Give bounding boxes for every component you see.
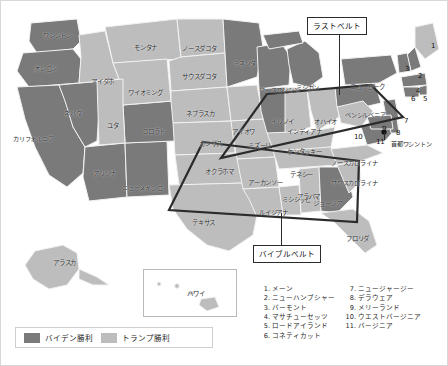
state-key-item: 5. ロードアイランド — [259, 322, 335, 331]
state-key-label: ニューハンプシャー — [270, 294, 335, 302]
state-key-label: ウエストバージニア — [356, 313, 421, 321]
state-key-number: 4. — [259, 313, 270, 322]
legend-swatch-trump — [101, 333, 117, 343]
state-label: ユタ — [107, 123, 119, 129]
state-key-number: 5. — [259, 322, 270, 331]
state-key-item: 8. デラウェア — [345, 294, 421, 303]
legend-swatch-biden — [24, 333, 40, 343]
state-key-item: 2. ニューハンプシャー — [259, 294, 335, 303]
numbered-state-key: 1. メーン2. ニューハンプシャー3. バーモント4. マサチューセッツ5. … — [259, 285, 445, 347]
state-label: ワシントン — [43, 33, 72, 39]
state-label: ジョージア — [313, 201, 342, 207]
state-label: サウスカロライナ — [331, 180, 377, 186]
state-label: モンタナ — [134, 45, 157, 51]
state-label: アリゾナ — [93, 171, 116, 177]
state-label: カリフォルニア — [13, 136, 54, 142]
state-utah — [97, 79, 125, 145]
state-key-label: デラウェア — [356, 294, 393, 302]
state-label: ハワイ — [187, 291, 204, 297]
state-key-number: 7. — [345, 285, 356, 294]
bible-belt-label: バイブルベルト — [259, 250, 315, 259]
state-key-number: 6. — [259, 332, 270, 341]
state-label: アーカンソー — [248, 180, 283, 186]
state-key-label: ニュージャージー — [356, 285, 414, 293]
state-label: ノースカロライナ — [331, 160, 377, 166]
state-texas — [169, 183, 257, 251]
state-label: ペンシルベニア — [345, 112, 386, 118]
state-maine — [415, 23, 439, 59]
state-key-label: コネティカット — [270, 332, 321, 340]
state-key-label: ロードアイランド — [270, 322, 328, 330]
state-key-label: メリーランド — [356, 304, 400, 312]
state-florida — [321, 209, 377, 253]
state-label: ケンタッキー — [287, 149, 322, 155]
state-number-marker: 4 — [416, 88, 420, 95]
state-number-marker: 11 — [376, 139, 385, 146]
state-label: 首都ワシントン — [391, 141, 432, 147]
state-new-york — [341, 55, 397, 85]
state-key-item: 1. メーン — [259, 285, 335, 294]
legend-label-biden: バイデン勝利 — [45, 332, 93, 343]
rust-belt-callout: ラストベルト — [307, 17, 367, 35]
state-montana — [105, 19, 181, 63]
state-number-marker: 2 — [418, 73, 422, 80]
state-label: サウスダコタ — [182, 74, 217, 80]
state-label: ルイジアナ — [259, 210, 288, 216]
state-wisconsin — [257, 43, 291, 89]
state-label: テキサス — [192, 220, 215, 226]
state-label: コロラド — [142, 129, 165, 135]
state-label: オクラホマ — [205, 169, 234, 175]
state-number-marker: 3 — [405, 66, 409, 73]
state-label: ミズーリ — [248, 143, 271, 149]
state-south-dakota — [169, 53, 227, 91]
state-key-number: 10. — [345, 313, 356, 322]
election-map-figure: ラストベルト バイブルベルト ワシントンオレゴンカリフォルニアネバダアイダホモン… — [0, 0, 448, 366]
state-key-item: 11. バージニア — [345, 322, 421, 331]
state-number-marker: 8 — [396, 130, 400, 137]
state-label: オハイオ — [314, 119, 337, 125]
state-key-label: バージニア — [356, 322, 393, 330]
state-key-column-right: 7. ニュージャージー8. デラウェア9. メリーランド10. ウエストバージニ… — [345, 285, 421, 347]
state-key-label: メーン — [270, 285, 293, 293]
state-label: ウィスコンシン — [259, 87, 300, 93]
state-key-number: 11. — [345, 322, 356, 331]
bible-belt-leader — [281, 213, 282, 245]
rust-belt-leader — [339, 33, 340, 95]
state-label: アイオワ — [232, 129, 255, 135]
state-label: テネシー — [290, 172, 313, 178]
state-label: インディアナ — [287, 129, 322, 135]
state-key-item: 6. コネティカット — [259, 332, 335, 341]
state-label: カンザス — [199, 141, 222, 147]
state-key-number: 8. — [345, 294, 356, 303]
state-label: ネバダ — [64, 111, 81, 117]
state-key-label: バーモント — [270, 304, 307, 312]
state-key-item: 3. バーモント — [259, 304, 335, 313]
state-key-item: 7. ニュージャージー — [345, 285, 421, 294]
state-key-item: 10. ウエストバージニア — [345, 313, 421, 322]
state-number-marker: 9 — [382, 126, 386, 133]
alaska-aleutians — [79, 269, 109, 285]
state-alaska — [25, 245, 79, 289]
state-key-number: 2. — [259, 294, 270, 303]
state-key-item: 4. マサチューセッツ — [259, 313, 335, 322]
state-label: ノースダコタ — [182, 46, 217, 52]
state-key-number: 3. — [259, 304, 270, 313]
state-number-marker: 6 — [411, 96, 415, 103]
legend-item-trump: トランプ勝利 — [101, 332, 170, 343]
state-number-marker: 1 — [431, 43, 435, 50]
state-michigan — [287, 41, 323, 87]
legend-item-biden: バイデン勝利 — [24, 332, 93, 343]
state-label: フロリダ — [346, 236, 369, 242]
state-label: ワイオミング — [128, 90, 163, 96]
state-label: オレゴン — [34, 66, 57, 72]
bible-belt-callout: バイブルベルト — [253, 245, 321, 263]
state-label: アイダホ — [91, 79, 114, 85]
state-key-item: 9. メリーランド — [345, 304, 421, 313]
state-colorado — [123, 101, 175, 143]
state-massachusetts — [401, 73, 427, 87]
state-label: ミシガン — [296, 85, 319, 91]
state-key-label: マサチューセッツ — [270, 313, 328, 321]
state-label: ミネソタ — [233, 61, 256, 67]
state-number-marker: 5 — [423, 96, 427, 103]
state-number-marker: 7 — [404, 118, 408, 125]
